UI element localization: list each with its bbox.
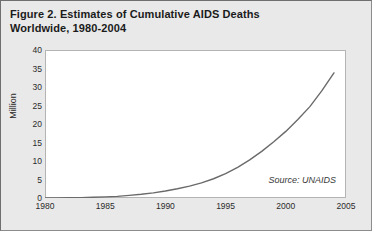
figure-container: Figure 2. Estimates of Cumulative AIDS D… xyxy=(0,0,372,231)
y-tick-label: 20 xyxy=(4,119,42,129)
y-tick-label: 5 xyxy=(4,175,42,185)
x-tick-label: 1995 xyxy=(216,201,235,211)
y-tick-label: 25 xyxy=(4,101,42,111)
plot-area: Source: UNAIDS xyxy=(45,50,346,198)
source-annotation: Source: UNAIDS xyxy=(268,175,336,185)
y-tick-label: 30 xyxy=(4,82,42,92)
y-axis-tick-labels: 0510152025303540 xyxy=(1,50,42,198)
figure-title-line-2: Worldwide, 1980-2004 xyxy=(10,21,340,35)
y-tick-label: 40 xyxy=(4,45,42,55)
y-tick-label: 15 xyxy=(4,138,42,148)
x-tick-label: 1985 xyxy=(96,201,115,211)
x-axis-tick-labels: 198019851990199520002005 xyxy=(45,201,346,215)
x-tick-label: 1990 xyxy=(156,201,175,211)
figure-title: Figure 2. Estimates of Cumulative AIDS D… xyxy=(10,7,340,35)
x-tick-label: 2000 xyxy=(276,201,295,211)
x-tick-label: 1980 xyxy=(36,201,55,211)
x-tick-label: 2005 xyxy=(337,201,356,211)
figure-title-line-1: Figure 2. Estimates of Cumulative AIDS D… xyxy=(10,7,340,21)
y-tick-label: 35 xyxy=(4,64,42,74)
y-tick-label: 10 xyxy=(4,156,42,166)
